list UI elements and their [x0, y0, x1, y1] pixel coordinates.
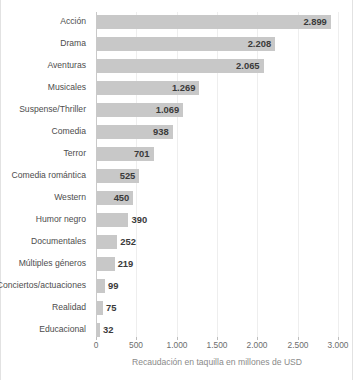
bar-value-label: 32 [103, 323, 113, 337]
x-tick-label: 0 [94, 340, 99, 350]
category-label: Educacional [0, 323, 86, 335]
category-label: Comedia [0, 125, 86, 137]
bar-row: Documentales252 [96, 232, 338, 254]
bar-value-label: 390 [131, 213, 147, 227]
bar-value-label: 2.899 [97, 15, 327, 29]
category-label: Comedia romántica [0, 169, 86, 181]
category-label: Documentales [0, 235, 86, 247]
bar-row: Western450 [96, 188, 338, 210]
bar-value-label: 75 [106, 301, 116, 315]
x-tick-label: 1.500 [207, 340, 228, 350]
bar-value-label: 525 [97, 169, 135, 183]
bar-value-label: 1.269 [97, 81, 195, 95]
bar-row: Conciertos/actuaciones99 [96, 276, 338, 298]
gridline [338, 12, 339, 337]
bar-value-label: 938 [97, 125, 169, 139]
bar-row: Comedia938 [96, 122, 338, 144]
bar-row: Humor negro390 [96, 210, 338, 232]
bar-value-label: 252 [120, 235, 136, 249]
bar-chart: Acción2.899Drama2.208Aventuras2.065Music… [0, 0, 353, 380]
bar-row: Realidad75 [96, 298, 338, 320]
category-label: Conciertos/actuaciones [0, 279, 86, 291]
category-label: Terror [0, 147, 86, 159]
category-label: Aventuras [0, 59, 86, 71]
x-tick-label: 2.000 [247, 340, 268, 350]
bar-row: Drama2.208 [96, 34, 338, 56]
bar-value-label: 2.065 [97, 59, 260, 73]
bar-value-label: 99 [108, 279, 118, 293]
bar[interactable] [97, 323, 100, 337]
bar[interactable] [97, 235, 117, 249]
bar-row: Suspense/Thriller1.069 [96, 100, 338, 122]
plot-area: Acción2.899Drama2.208Aventuras2.065Music… [96, 12, 338, 337]
x-axis-title: Recaudación en taquilla en millones de U… [96, 357, 338, 367]
category-label: Musicales [0, 81, 86, 93]
bar-value-label: 1.069 [97, 103, 179, 117]
category-label: Western [0, 191, 86, 203]
bar-value-label: 450 [97, 191, 129, 205]
bar[interactable] [97, 213, 128, 227]
category-label: Humor negro [0, 213, 86, 225]
x-axis: 05001.0001.5002.0002.5003.000 [96, 337, 338, 351]
category-label: Múltiples géneros [0, 257, 86, 269]
bar[interactable] [97, 279, 105, 293]
bar[interactable] [97, 257, 115, 271]
bar-row: Múltiples géneros219 [96, 254, 338, 276]
bar-row: Comedia romántica525 [96, 166, 338, 188]
bar-row: Musicales1.269 [96, 78, 338, 100]
bar-row: Aventuras2.065 [96, 56, 338, 78]
category-label: Drama [0, 37, 86, 49]
bar-value-label: 219 [118, 257, 134, 271]
x-tick-label: 2.500 [288, 340, 309, 350]
x-tick-label: 500 [129, 340, 143, 350]
category-label: Suspense/Thriller [0, 103, 86, 115]
bar-row: Acción2.899 [96, 12, 338, 34]
category-label: Realidad [0, 301, 86, 313]
x-tick-label: 1.000 [167, 340, 188, 350]
x-tick-label: 3.000 [328, 340, 349, 350]
bar-value-label: 2.208 [97, 37, 271, 51]
bar[interactable] [97, 301, 103, 315]
category-label: Acción [0, 15, 86, 27]
bar-row: Terror701 [96, 144, 338, 166]
bar-value-label: 701 [97, 147, 150, 161]
